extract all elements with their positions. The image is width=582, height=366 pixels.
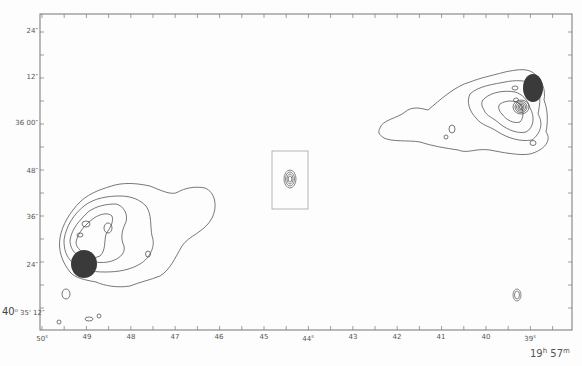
contour-map [0,0,582,366]
x-tick-label: 50s [32,333,52,343]
x-tick-label: 42 [387,333,407,341]
x-tick-label: 46 [209,333,229,341]
northwest-lobe-contours [379,70,548,155]
y-tick-label: 12″ [0,73,38,81]
x-tick-label: 44s [298,333,318,343]
x-tick-label: 49 [77,333,97,341]
plot-frame [40,14,572,330]
x-tick-label: 47 [165,333,185,341]
x-tick-label: 43 [343,333,363,341]
x-tick-label: 39s [520,333,540,343]
y-tick-label: 24″ [0,27,38,35]
southeast-hotspot [71,250,97,278]
y-tick-label: 36″ [0,213,38,221]
beam-ellipse [513,289,521,301]
northwest-hotspot [523,74,543,102]
ra-axis-title: 19h 57m [530,347,570,359]
core-box [272,151,308,209]
x-tick-label: 40 [476,333,496,341]
y-tick-label: 48″ [0,167,38,175]
y-axis-origin-label: 40o 35' 12″ [2,306,45,317]
x-tick-label: 48 [121,333,141,341]
axis-ticks [40,14,572,330]
x-tick-label: 45 [254,333,274,341]
x-tick-label: 41 [431,333,451,341]
y-tick-label: 24″ [0,261,38,269]
y-tick-label: 36 00″ [0,119,38,127]
core-contours [284,170,296,188]
